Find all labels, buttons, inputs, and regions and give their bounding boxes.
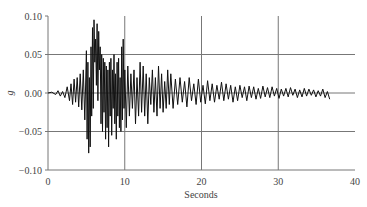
y-tick-label: −0.05 [19, 126, 42, 137]
y-tick-label: 0.10 [25, 11, 43, 22]
acceleration-trace [48, 20, 330, 153]
y-tick-label: 0.05 [25, 49, 43, 60]
y-axis-label: g [4, 91, 15, 96]
y-tick-labels: 0.100.050.00−0.05−0.10 [19, 11, 48, 176]
x-tick-label: 30 [273, 176, 283, 187]
y-tick-label: −0.10 [19, 165, 42, 176]
x-tick-label: 40 [350, 176, 360, 187]
x-tick-labels: 010203040 [46, 176, 361, 187]
y-tick-label: 0.00 [25, 88, 43, 99]
x-tick-label: 0 [46, 176, 51, 187]
chart: 0.100.050.00−0.05−0.10 010203040 Seconds… [0, 0, 367, 207]
x-axis-label: Seconds [184, 189, 217, 200]
x-tick-label: 10 [120, 176, 130, 187]
x-tick-label: 20 [197, 176, 207, 187]
